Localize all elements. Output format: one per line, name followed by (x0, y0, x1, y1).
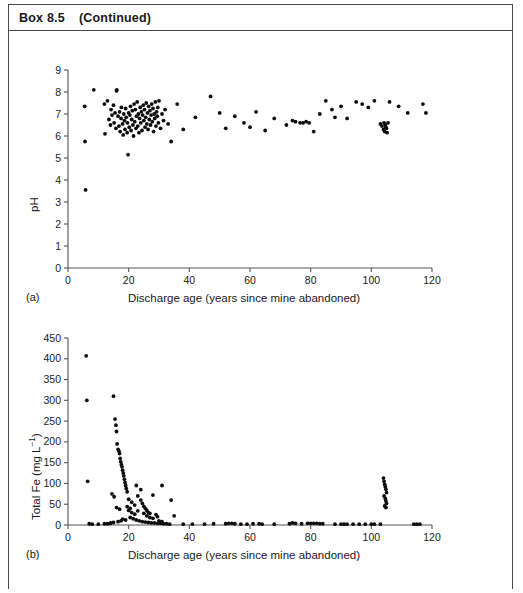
panel-tag-a: (a) (26, 291, 39, 303)
svg-text:3: 3 (55, 196, 61, 208)
svg-text:7: 7 (55, 108, 61, 120)
svg-text:80: 80 (305, 531, 317, 543)
x-axis-title-b: Discharge age (years since mine abandone… (128, 549, 360, 561)
svg-text:4: 4 (55, 174, 61, 186)
svg-text:2: 2 (55, 218, 61, 230)
svg-text:200: 200 (43, 435, 61, 447)
svg-text:120: 120 (423, 531, 441, 543)
svg-text:6: 6 (55, 130, 61, 142)
svg-text:300: 300 (43, 394, 61, 406)
box-label: Box 8.5 (19, 11, 65, 25)
svg-text:20: 20 (123, 274, 135, 286)
scatter-plot-ph: 0123456789020406080100120 (0, 52, 523, 288)
svg-text:1: 1 (55, 240, 61, 252)
svg-text:120: 120 (423, 274, 441, 286)
svg-text:100: 100 (363, 274, 381, 286)
y-axis-title-b: Total Fe (mg L−1) (28, 433, 42, 520)
svg-text:400: 400 (43, 352, 61, 364)
svg-text:5: 5 (55, 152, 61, 164)
x-axis-title-a: Discharge age (years since mine abandone… (128, 292, 360, 304)
svg-text:0: 0 (65, 274, 71, 286)
svg-text:100: 100 (363, 531, 381, 543)
svg-text:40: 40 (183, 531, 195, 543)
svg-text:100: 100 (43, 477, 61, 489)
scatter-plot-total-fe: 0501001502002503003504004500204060801001… (0, 320, 523, 545)
box-continued-label: (Continued) (79, 11, 151, 25)
svg-text:0: 0 (65, 531, 71, 543)
svg-text:150: 150 (43, 456, 61, 468)
svg-text:9: 9 (55, 64, 61, 76)
svg-text:350: 350 (43, 373, 61, 385)
chart-panel-b: 0501001502002503003504004500204060801001… (0, 320, 523, 585)
box-header: Box 8.5 (Continued) (8, 4, 513, 31)
svg-text:0: 0 (55, 519, 61, 531)
panel-tag-b: (b) (26, 548, 39, 560)
svg-text:20: 20 (123, 531, 135, 543)
svg-text:0: 0 (55, 262, 61, 274)
svg-text:80: 80 (305, 274, 317, 286)
svg-text:60: 60 (244, 531, 256, 543)
svg-text:60: 60 (244, 274, 256, 286)
svg-text:50: 50 (49, 498, 61, 510)
svg-text:8: 8 (55, 86, 61, 98)
chart-panel-a: 0123456789020406080100120 pH Discharge a… (0, 52, 523, 317)
y-axis-title-a: pH (28, 197, 40, 212)
svg-text:40: 40 (183, 274, 195, 286)
svg-text:450: 450 (43, 332, 61, 344)
svg-text:250: 250 (43, 415, 61, 427)
